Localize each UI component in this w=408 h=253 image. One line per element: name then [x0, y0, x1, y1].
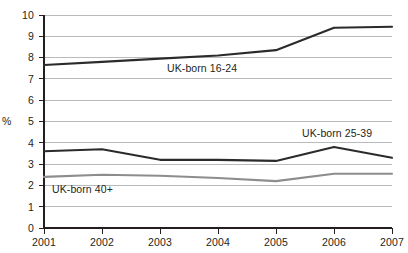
y-tick-label-7: 7: [12, 73, 34, 85]
series-annotation-uk-born-25-39: UK-born 25-39: [302, 127, 372, 139]
y-tick-label-1: 1: [12, 201, 34, 213]
y-tick-label-9: 9: [12, 30, 34, 42]
y-tick-label-4: 4: [12, 137, 34, 149]
y-tick-label-6: 6: [12, 94, 34, 106]
figure-caption: [0, 243, 408, 253]
series-line-uk-born-25-39: [44, 147, 392, 161]
series-annotation-uk-born-40-plus: UK-born 40+: [52, 183, 113, 195]
series-line-uk-born-16-24: [44, 27, 392, 65]
line-chart: % 10 9 8 7 6 5 4 3 2 1 0 2001 2002 2003 …: [0, 0, 408, 253]
y-axis-ticks: [39, 15, 44, 228]
y-tick-label-10: 10: [12, 9, 34, 21]
series-annotation-uk-born-16-24: UK-born 16-24: [167, 62, 237, 74]
x-axis-ticks: [44, 228, 392, 234]
y-tick-label-2: 2: [12, 179, 34, 191]
series-line-uk-born-40-plus: [44, 174, 392, 181]
y-tick-label-8: 8: [12, 51, 34, 63]
y-axis-title: %: [2, 115, 11, 127]
y-tick-label-5: 5: [12, 115, 34, 127]
y-tick-label-3: 3: [12, 158, 34, 170]
y-tick-label-0: 0: [12, 222, 34, 234]
